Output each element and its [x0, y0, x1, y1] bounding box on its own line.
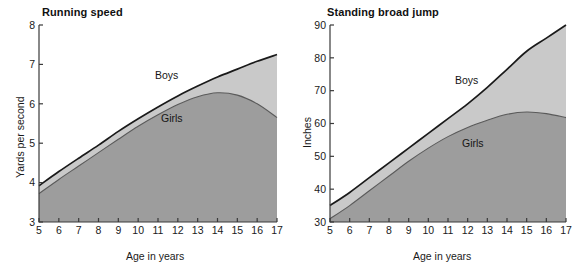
- panel-running-speed: Running speed Yards per second Age in ye…: [0, 0, 290, 271]
- x-tick-label: 15: [521, 224, 533, 236]
- y-tick-label: 3: [29, 216, 35, 228]
- y-tick-label: 7: [29, 58, 35, 70]
- x-tick-label: 11: [443, 224, 454, 236]
- x-tick-label: 11: [153, 224, 164, 236]
- x-tick-label: 6: [56, 224, 62, 236]
- girls-series-label: Girls: [462, 137, 484, 149]
- y-tick-label: 80: [314, 52, 326, 64]
- y-tick-label: 5: [29, 137, 35, 149]
- x-tick-label: 12: [172, 224, 184, 236]
- x-tick-label: 8: [386, 224, 392, 236]
- girls-series-label: Girls: [161, 112, 183, 124]
- y-tick-label: 50: [314, 150, 326, 162]
- y-tick-label: 8: [29, 19, 35, 31]
- x-tick-label: 12: [462, 224, 474, 236]
- two-panel-chart-figure: Running speed Yards per second Age in ye…: [0, 0, 579, 271]
- x-tick-label: 13: [192, 224, 204, 236]
- x-tick-label: 14: [501, 224, 513, 236]
- y-tick-label: 4: [29, 176, 35, 188]
- x-tick-label: 10: [132, 224, 144, 236]
- panel-standing-broad-jump: Standing broad jump Inches Age in years …: [289, 0, 579, 271]
- boys-series-label: Boys: [155, 69, 178, 81]
- x-tick-label: 10: [422, 224, 434, 236]
- x-tick-label: 16: [540, 224, 552, 236]
- y-tick-label: 40: [314, 183, 326, 195]
- x-tick-label: 17: [560, 224, 572, 236]
- y-tick-label: 90: [314, 19, 326, 31]
- x-tick-label: 16: [251, 224, 263, 236]
- x-tick-label: 14: [212, 224, 224, 236]
- x-tick-label: 7: [366, 224, 372, 236]
- x-tick-label: 5: [36, 224, 42, 236]
- y-tick-label: 6: [29, 98, 35, 110]
- x-tick-label: 8: [96, 224, 102, 236]
- x-tick-label: 9: [115, 224, 121, 236]
- x-tick-label: 13: [481, 224, 493, 236]
- boys-series-label: Boys: [455, 74, 478, 86]
- x-tick-label: 15: [231, 224, 243, 236]
- y-tick-label: 70: [314, 84, 326, 96]
- x-tick-label: 6: [347, 224, 353, 236]
- x-tick-label: 17: [271, 224, 283, 236]
- x-tick-label: 7: [76, 224, 82, 236]
- x-tick-label: 9: [406, 224, 412, 236]
- y-tick-label: 60: [314, 117, 326, 129]
- plot-area-running-speed: 345678567891011121314151617BoysGirls: [0, 0, 290, 271]
- plot-area-standing-broad-jump: 30405060708090567891011121314151617BoysG…: [289, 0, 579, 271]
- y-tick-label: 30: [314, 216, 326, 228]
- x-tick-label: 5: [327, 224, 333, 236]
